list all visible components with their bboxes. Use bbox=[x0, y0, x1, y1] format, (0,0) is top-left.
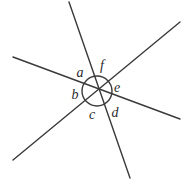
angle-label-a: a bbox=[77, 66, 84, 80]
figure-canvas bbox=[0, 0, 193, 187]
angle-label-c: c bbox=[89, 108, 95, 122]
line-group bbox=[13, 2, 180, 178]
angle-label-f: f bbox=[100, 59, 104, 73]
line-diagonal-rising bbox=[13, 22, 180, 160]
angle-label-d: d bbox=[112, 106, 119, 120]
angle-label-e: e bbox=[114, 81, 120, 95]
geometry-figure: a f e b c d bbox=[0, 0, 193, 187]
angle-label-b: b bbox=[72, 88, 79, 102]
line-shallow-left bbox=[13, 57, 180, 119]
